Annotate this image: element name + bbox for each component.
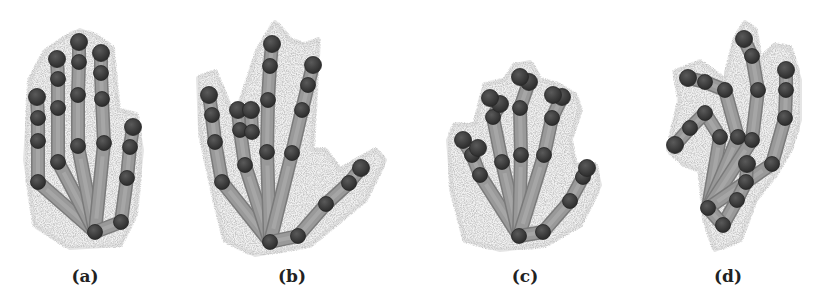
joint-sphere — [739, 175, 754, 190]
joint-sphere — [295, 103, 310, 118]
joint-sphere — [71, 88, 86, 103]
joint-sphere — [716, 218, 731, 233]
panel-label-b: (b) — [278, 266, 306, 286]
joint-sphere — [215, 175, 230, 190]
hand-pose-figure — [0, 0, 823, 303]
joint-sphere — [778, 111, 793, 126]
joint-sphere — [125, 119, 142, 136]
joint-sphere — [291, 229, 306, 244]
panels-layer — [25, 22, 800, 255]
joint-sphere — [319, 197, 334, 212]
joint-sphere — [71, 34, 88, 51]
hand-panel-b — [198, 22, 385, 255]
joint-sphere — [205, 108, 220, 123]
joint-sphere — [779, 83, 794, 98]
joint-sphere — [123, 140, 138, 155]
joint-sphere — [97, 136, 112, 151]
joint-sphere — [537, 148, 552, 163]
joint-sphere — [513, 101, 528, 116]
joint-sphere — [285, 146, 300, 161]
joint-sphere — [778, 62, 795, 79]
joint-sphere — [305, 57, 322, 74]
joint-sphere — [563, 194, 578, 209]
joint-sphere — [701, 201, 716, 216]
panel-label-a: (a) — [71, 266, 98, 286]
joint-sphere — [512, 69, 529, 86]
joint-sphere — [765, 157, 780, 172]
joint-sphere — [545, 111, 560, 126]
hand-panel-d — [667, 22, 801, 250]
joint-sphere — [713, 130, 728, 145]
joint-sphere — [698, 75, 713, 90]
joint-sphere — [579, 160, 596, 177]
joint-sphere — [718, 83, 733, 98]
joint-sphere — [536, 225, 551, 240]
joint-sphere — [514, 148, 529, 163]
joint-sphere — [263, 235, 278, 250]
panel-label-d: (d) — [714, 266, 742, 286]
joint-sphere — [31, 111, 46, 126]
joint-sphere — [751, 83, 766, 98]
joint-sphere — [88, 225, 103, 240]
joint-sphere — [473, 168, 488, 183]
joint-sphere — [545, 87, 562, 104]
joint-sphere — [731, 130, 746, 145]
joint-sphere — [261, 93, 276, 108]
joint-sphere — [263, 59, 278, 74]
joint-sphere — [238, 158, 253, 173]
joint-sphere — [470, 140, 487, 157]
joint-sphere — [72, 55, 87, 70]
joint-sphere — [208, 135, 223, 150]
joint-sphere — [51, 72, 66, 87]
joint-sphere — [495, 155, 510, 170]
joint-sphere — [264, 36, 281, 53]
joint-sphere — [745, 133, 760, 148]
joint-sphere — [245, 125, 260, 140]
joint-sphere — [260, 145, 275, 160]
joint-sphere — [730, 193, 745, 208]
joint-sphere — [51, 155, 66, 170]
joint-sphere — [667, 137, 684, 154]
hand-panel-c — [448, 62, 600, 250]
joint-sphere — [301, 78, 316, 93]
joint-sphere — [736, 31, 753, 48]
joint-sphere — [482, 90, 499, 107]
joint-sphere — [201, 87, 218, 104]
joint-sphere — [51, 101, 66, 116]
joint-sphere — [93, 45, 110, 62]
joint-sphere — [71, 139, 86, 154]
joint-sphere — [739, 156, 756, 173]
joint-sphere — [512, 229, 527, 244]
joint-sphere — [94, 66, 109, 81]
panel-label-c: (c) — [512, 266, 538, 286]
joint-sphere — [342, 176, 357, 191]
joint-sphere — [120, 171, 135, 186]
joint-sphere — [114, 215, 129, 230]
hand-panel-a — [25, 30, 142, 248]
joint-sphere — [31, 134, 46, 149]
joint-sphere — [680, 70, 697, 87]
joint-sphere — [243, 102, 260, 119]
joint-sphere — [455, 132, 472, 149]
joint-sphere — [95, 92, 110, 107]
joint-sphere — [353, 160, 370, 177]
joint-sphere — [698, 106, 713, 121]
joint-sphere — [31, 175, 46, 190]
joint-sphere — [745, 49, 760, 64]
joint-sphere — [49, 51, 66, 68]
joint-sphere — [29, 89, 46, 106]
joint-sphere — [683, 121, 698, 136]
